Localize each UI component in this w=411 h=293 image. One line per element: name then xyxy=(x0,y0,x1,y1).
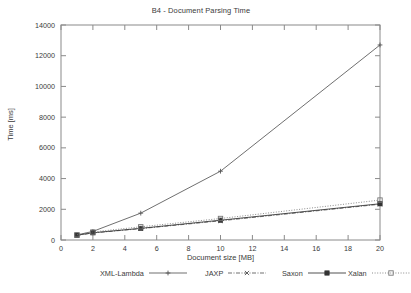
legend-label: JAXP xyxy=(205,269,223,278)
y-tick-label: 4000 xyxy=(39,174,55,183)
filled-square-marker-icon xyxy=(307,267,347,279)
series-jaxp xyxy=(75,202,382,237)
x-tick-label: 12 xyxy=(248,244,256,253)
x-tick-label: 8 xyxy=(187,244,191,253)
y-tick-label: 10000 xyxy=(35,82,55,91)
open-square-marker-icon xyxy=(371,267,411,279)
series-saxon xyxy=(75,202,382,238)
cross-marker-icon xyxy=(227,267,267,279)
x-tick-label: 14 xyxy=(280,244,288,253)
y-tick-label: 12000 xyxy=(35,51,55,60)
x-tick-label: 20 xyxy=(376,244,384,253)
x-tick-label: 18 xyxy=(344,244,352,253)
y-tick-label: 2000 xyxy=(39,205,55,214)
axis-frame xyxy=(61,25,380,240)
y-tick-label: 0 xyxy=(51,236,55,245)
legend-label: XML-Lambda xyxy=(100,269,144,278)
x-tick-label: 6 xyxy=(155,244,159,253)
y-tick-label: 14000 xyxy=(35,21,55,30)
x-tick-label: 10 xyxy=(217,244,225,253)
y-tick-label: 6000 xyxy=(39,143,55,152)
x-tick-label: 0 xyxy=(59,244,63,253)
chart-legend: XML-LambdaJAXPSaxonXalan xyxy=(0,266,402,284)
legend-item-xml-lambda[interactable]: XML-Lambda xyxy=(100,266,188,280)
x-tick-label: 2 xyxy=(91,244,95,253)
legend-item-saxon[interactable]: Saxon xyxy=(282,266,347,280)
data-series-layer xyxy=(75,43,383,238)
x-tick-label: 4 xyxy=(123,244,127,253)
y-tick-label: 8000 xyxy=(39,113,55,122)
legend-label: Xalan xyxy=(348,269,367,278)
y-axis-ticks: 02000400060008000100001200014000 xyxy=(35,21,380,245)
series-xalan xyxy=(75,198,382,237)
x-tick-label: 16 xyxy=(312,244,320,253)
legend-label: Saxon xyxy=(282,269,303,278)
x-axis-label: Document size [MB] xyxy=(61,253,380,262)
legend-item-xalan[interactable]: Xalan xyxy=(348,266,411,280)
plus-marker-icon xyxy=(148,267,188,279)
legend-item-jaxp[interactable]: JAXP xyxy=(205,266,267,280)
